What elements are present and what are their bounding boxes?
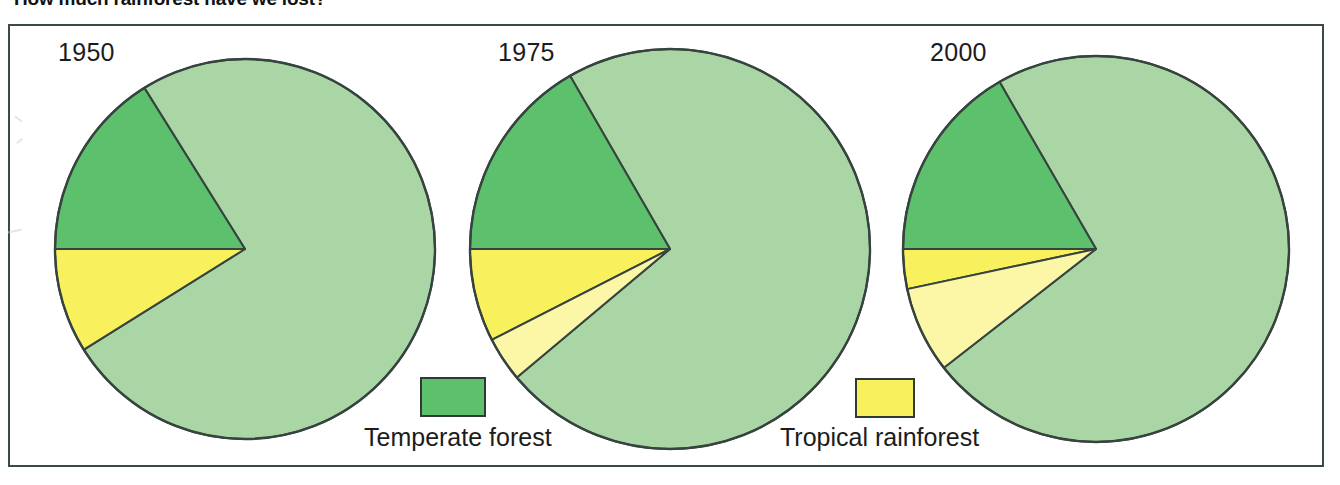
legend-swatch-tropical-rainforest bbox=[855, 378, 915, 418]
pie-chart-canvas bbox=[0, 0, 1340, 485]
pie-year-label-2000: 2000 bbox=[930, 38, 987, 67]
legend-label-temperate-forest: Temperate forest bbox=[364, 423, 552, 452]
pie-year-label-1975: 1975 bbox=[498, 38, 555, 67]
legend-label-tropical-rainforest: Tropical rainforest bbox=[780, 423, 979, 452]
pies-group bbox=[55, 49, 1289, 449]
pie-year-label-1950: 1950 bbox=[58, 38, 115, 67]
legend-swatch-temperate-forest bbox=[420, 377, 486, 417]
